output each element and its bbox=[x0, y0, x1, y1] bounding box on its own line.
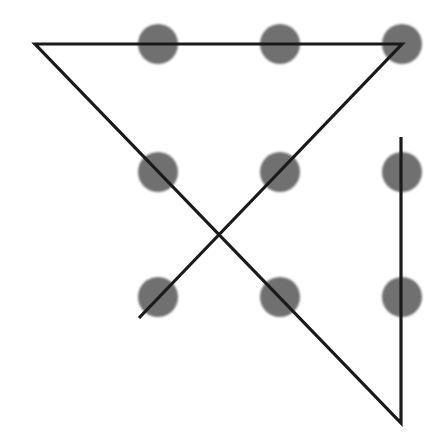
solution-path-line bbox=[35, 44, 402, 423]
nine-dots-diagram bbox=[0, 0, 442, 448]
